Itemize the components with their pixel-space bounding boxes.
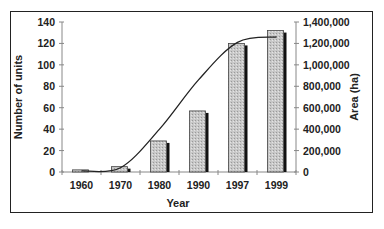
y-tick-label-right: 600,000 (303, 102, 341, 114)
axes (59, 22, 299, 175)
bar-shadow (167, 143, 170, 172)
bar-1970 (112, 167, 128, 172)
y-tick-label-right: 1,400,000 (303, 16, 350, 28)
y-tick-label-right: 800,000 (303, 80, 341, 92)
y-axis-title-right: Area (ha) (348, 73, 360, 121)
bar-1999 (268, 31, 284, 172)
y-tick-label-left: 100 (37, 59, 55, 71)
x-axis-title: Year (166, 197, 190, 209)
y-tick-label-left: 60 (43, 102, 55, 114)
x-tick-label: 1999 (265, 179, 289, 191)
y-tick-label-right: 400,000 (303, 123, 341, 135)
y-tick-label-left: 40 (43, 123, 55, 135)
bar-shadow (206, 113, 209, 172)
y-tick-label-right: 1,000,000 (303, 59, 350, 71)
x-tick-label: 1970 (109, 179, 133, 191)
bar-series-units (73, 31, 287, 172)
bar-shadow (128, 169, 131, 172)
y-tick-label-right: 200,000 (303, 145, 341, 157)
y-tick-label-left: 140 (37, 16, 55, 28)
bar-shadow (245, 45, 248, 172)
bar-1990 (190, 111, 206, 172)
y-tick-label-right: 1,200,000 (303, 37, 350, 49)
y-tick-label-left: 120 (37, 37, 55, 49)
y-tick-label-left: 20 (43, 145, 55, 157)
y-tick-label-right: 0 (303, 166, 309, 178)
x-tick-label: 1980 (148, 179, 172, 191)
bar-1997 (229, 43, 245, 172)
x-tick-label: 1960 (70, 179, 94, 191)
y-tick-label-left: 80 (43, 80, 55, 92)
x-tick-label: 1990 (187, 179, 211, 191)
y-tick-label-left: 0 (49, 166, 55, 178)
y-axis-title-left: Number of units (12, 55, 24, 139)
bar-shadow (284, 33, 287, 172)
x-tick-label: 1997 (226, 179, 250, 191)
combo-bar-line-chart: 0204060801001201400200,000400,000600,000… (0, 0, 384, 229)
bar-1980 (151, 141, 167, 172)
